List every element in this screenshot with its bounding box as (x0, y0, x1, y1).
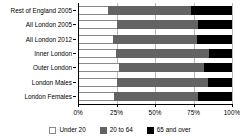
y-axis-label-text: All London 2005 (26, 20, 72, 29)
y-axis-label: Inner London (0, 49, 76, 58)
y-axis-label-text: All London 2012 (26, 35, 72, 44)
x-axis-tick-label: 0% (73, 108, 82, 117)
x-axis-tick (117, 104, 118, 107)
gridline-100 (232, 3, 233, 104)
y-axis-label-text: London Males (32, 78, 72, 87)
bar-segment-mid[interactable] (119, 63, 205, 72)
y-axis-tick-mark (73, 96, 76, 97)
bar-segment-old[interactable] (208, 78, 232, 87)
legend-swatch-old (147, 127, 154, 134)
bar-segment-mid[interactable] (117, 78, 207, 87)
bar-row[interactable] (79, 63, 232, 72)
x-axis-tick (155, 104, 156, 107)
y-axis-tick-mark (73, 82, 76, 83)
bar-segment-mid[interactable] (113, 35, 197, 44)
bar-segment-mid[interactable] (117, 20, 198, 29)
y-axis-tick-mark (73, 53, 76, 54)
bar-segment-mid[interactable] (108, 6, 191, 15)
legend-swatch-under20 (49, 127, 56, 134)
x-axis-tick (232, 104, 233, 107)
x-axis-tick-labels: 0%25%50%75%100% (0, 108, 240, 117)
bar-segment-mid[interactable] (114, 92, 198, 101)
y-axis-label-text: London Females (24, 92, 72, 101)
bar-segment-old[interactable] (197, 35, 232, 44)
plot-area (78, 3, 232, 104)
bar-row[interactable] (79, 20, 232, 29)
bar-segment-old[interactable] (198, 92, 232, 101)
stacked-bar-chart: Rest of England 2005All London 2005All L… (0, 0, 240, 138)
legend-label: 20 to 64 (110, 126, 133, 134)
y-axis-tick-mark (73, 10, 76, 11)
bar-segment-under20[interactable] (79, 92, 114, 101)
y-axis-label: London Males (0, 78, 76, 87)
y-axis-label-text: Rest of England 2005 (11, 6, 72, 15)
y-axis-label: London Females (0, 92, 76, 101)
bar-segment-under20[interactable] (79, 6, 108, 15)
legend-item[interactable]: 20 to 64 (100, 126, 133, 134)
x-axis-tick (78, 104, 79, 107)
bar-segment-under20[interactable] (79, 35, 113, 44)
bar-row[interactable] (79, 78, 232, 87)
bar-row[interactable] (79, 49, 232, 58)
x-axis-tick-label: 75% (187, 108, 200, 117)
legend-item[interactable]: 65 and over (147, 126, 191, 134)
legend-label: 65 and over (157, 126, 191, 134)
bar-segment-under20[interactable] (79, 63, 119, 72)
y-axis-label-text: Inner London (34, 49, 72, 58)
chart-legend: Under 2020 to 6465 and over (0, 124, 240, 136)
x-axis-tick-label: 25% (110, 108, 123, 117)
bar-segment-old[interactable] (198, 20, 232, 29)
x-axis-tick (194, 104, 195, 107)
bar-row[interactable] (79, 92, 232, 101)
y-axis-label-text: Outer London (33, 63, 72, 72)
legend-item[interactable]: Under 20 (49, 126, 85, 134)
bar-row[interactable] (79, 35, 232, 44)
bar-rows (79, 3, 232, 104)
bar-segment-old[interactable] (191, 6, 232, 15)
legend-label: Under 20 (59, 126, 85, 134)
bar-segment-under20[interactable] (79, 78, 117, 87)
x-axis-tick-label: 100% (224, 108, 240, 117)
y-axis-tick-mark (73, 24, 76, 25)
y-axis-label: All London 2005 (0, 20, 76, 29)
y-axis-tick-mark (73, 67, 76, 68)
y-axis-tick-mark (73, 39, 76, 40)
x-axis-tick-label: 50% (149, 108, 162, 117)
y-axis-category-labels: Rest of England 2005All London 2005All L… (0, 3, 76, 104)
y-axis-label: Outer London (0, 63, 76, 72)
bar-segment-mid[interactable] (116, 49, 209, 58)
y-axis-label: All London 2012 (0, 35, 76, 44)
bar-segment-under20[interactable] (79, 49, 116, 58)
bar-row[interactable] (79, 6, 232, 15)
bar-segment-under20[interactable] (79, 20, 117, 29)
bar-segment-old[interactable] (204, 63, 232, 72)
y-axis-label: Rest of England 2005 (0, 6, 76, 15)
legend-swatch-mid (100, 127, 107, 134)
bar-segment-old[interactable] (209, 49, 232, 58)
